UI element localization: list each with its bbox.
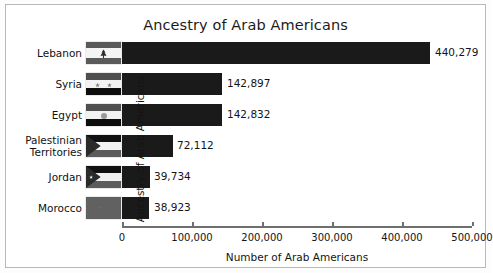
eagle-emblem-icon — [101, 113, 107, 119]
lebanon-flag-icon — [86, 42, 121, 64]
x-axis-tick-label: 500,000 — [451, 232, 492, 243]
category-label: Syria — [0, 79, 82, 91]
plot-area: Lebanon 440,279 Syria 142,897 — [122, 38, 472, 222]
bar-value-label: 38,923 — [154, 201, 191, 213]
x-axis-tick-label: 0 — [119, 232, 125, 243]
category-label: Lebanon — [0, 48, 82, 60]
category-label: Morocco — [0, 203, 82, 215]
category-label-line1: Lebanon — [37, 47, 82, 59]
x-axis-tick — [472, 222, 474, 226]
y-axis-title: Ancestry of Arab Americans — [134, 69, 146, 229]
pentagram-icon — [99, 203, 111, 215]
x-axis-tick — [122, 222, 124, 226]
x-axis-tick — [192, 222, 194, 226]
x-axis-tick-label: 300,000 — [311, 232, 352, 243]
chart-title: Ancestry of Arab Americans — [0, 17, 491, 33]
category-label: Egypt — [0, 110, 82, 122]
bar — [122, 42, 430, 64]
x-axis-tick — [332, 222, 334, 226]
x-axis: 0 100,000 200,000 300,000 400,000 500,00… — [122, 226, 472, 228]
bar-value-label: 440,279 — [435, 46, 478, 58]
x-axis-title: Number of Arab Americans — [122, 251, 472, 263]
category-label-line2: Territories — [0, 147, 82, 159]
category-label-line1: Egypt — [52, 109, 82, 121]
jordan-flag-icon — [86, 166, 121, 188]
bar — [122, 135, 173, 157]
category-label-line1: Jordan — [49, 171, 82, 183]
x-axis-tick-label: 200,000 — [241, 232, 282, 243]
morocco-flag-icon — [86, 197, 121, 219]
category-label-line1: Palestinian — [0, 135, 82, 147]
x-axis-tick — [262, 222, 264, 226]
category-label: Palestinian Territories — [0, 135, 82, 158]
x-axis-tick — [402, 222, 404, 226]
palestine-flag-icon — [86, 135, 121, 157]
category-label-line1: Syria — [55, 78, 82, 90]
bar-value-label: 39,734 — [154, 170, 191, 182]
bar-value-label: 142,832 — [227, 108, 270, 120]
x-axis-tick-label: 100,000 — [171, 232, 212, 243]
bar-value-label: 142,897 — [227, 77, 270, 89]
bar-value-label: 72,112 — [177, 139, 214, 151]
x-axis-tick-label: 400,000 — [381, 232, 422, 243]
category-label-line1: Morocco — [38, 202, 82, 214]
egypt-flag-icon — [86, 104, 121, 126]
category-label: Jordan — [0, 172, 82, 184]
syria-flag-icon — [86, 73, 121, 95]
